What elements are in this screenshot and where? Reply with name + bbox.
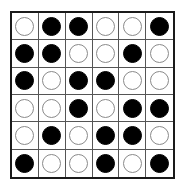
- game-board: [10, 11, 175, 179]
- white-disc-icon: [96, 17, 115, 36]
- board-cell-r6-c3[interactable]: [66, 150, 93, 177]
- black-disc-icon: [123, 44, 142, 63]
- white-disc-icon: [150, 71, 169, 90]
- white-disc-icon: [96, 44, 115, 63]
- board-cell-r6-c5[interactable]: [119, 150, 146, 177]
- black-disc-icon: [69, 71, 88, 90]
- board-cell-r3-c1[interactable]: [12, 68, 39, 95]
- white-disc-icon: [69, 126, 88, 145]
- board-cell-r4-c4[interactable]: [93, 95, 120, 122]
- black-disc-icon: [123, 99, 142, 118]
- black-disc-icon: [42, 126, 61, 145]
- board-cell-r6-c1[interactable]: [12, 150, 39, 177]
- white-disc-icon: [150, 44, 169, 63]
- board-cell-r6-c4[interactable]: [93, 150, 120, 177]
- board-cell-r2-c5[interactable]: [119, 40, 146, 67]
- black-disc-icon: [96, 154, 115, 173]
- black-disc-icon: [15, 154, 34, 173]
- board-cell-r5-c5[interactable]: [119, 122, 146, 149]
- board-cell-r6-c2[interactable]: [39, 150, 66, 177]
- black-disc-icon: [150, 99, 169, 118]
- board-cell-r4-c2[interactable]: [39, 95, 66, 122]
- board-cell-r5-c2[interactable]: [39, 122, 66, 149]
- board-cell-r3-c5[interactable]: [119, 68, 146, 95]
- white-disc-icon: [15, 99, 34, 118]
- black-disc-icon: [42, 44, 61, 63]
- board-cell-r2-c6[interactable]: [146, 40, 173, 67]
- board-cell-r5-c1[interactable]: [12, 122, 39, 149]
- white-disc-icon: [123, 17, 142, 36]
- white-disc-icon: [15, 126, 34, 145]
- black-disc-icon: [150, 154, 169, 173]
- black-disc-icon: [15, 44, 34, 63]
- board-cell-r5-c4[interactable]: [93, 122, 120, 149]
- board-cell-r4-c1[interactable]: [12, 95, 39, 122]
- board-cell-r5-c6[interactable]: [146, 122, 173, 149]
- black-disc-icon: [42, 17, 61, 36]
- board-cell-r4-c5[interactable]: [119, 95, 146, 122]
- black-disc-icon: [69, 99, 88, 118]
- white-disc-icon: [42, 99, 61, 118]
- board-cell-r1-c1[interactable]: [12, 13, 39, 40]
- board-cell-r2-c1[interactable]: [12, 40, 39, 67]
- board-cell-r1-c6[interactable]: [146, 13, 173, 40]
- black-disc-icon: [96, 126, 115, 145]
- white-disc-icon: [123, 154, 142, 173]
- board-cell-r2-c2[interactable]: [39, 40, 66, 67]
- board-cell-r3-c2[interactable]: [39, 68, 66, 95]
- black-disc-icon: [150, 17, 169, 36]
- white-disc-icon: [123, 71, 142, 90]
- board-cell-r1-c5[interactable]: [119, 13, 146, 40]
- board-cell-r6-c6[interactable]: [146, 150, 173, 177]
- black-disc-icon: [15, 71, 34, 90]
- white-disc-icon: [150, 126, 169, 145]
- white-disc-icon: [42, 71, 61, 90]
- black-disc-icon: [69, 17, 88, 36]
- board-cell-r1-c2[interactable]: [39, 13, 66, 40]
- white-disc-icon: [42, 154, 61, 173]
- white-disc-icon: [15, 17, 34, 36]
- board-cell-r4-c6[interactable]: [146, 95, 173, 122]
- board-cell-r1-c3[interactable]: [66, 13, 93, 40]
- black-disc-icon: [96, 71, 115, 90]
- board-cell-r2-c4[interactable]: [93, 40, 120, 67]
- black-disc-icon: [123, 126, 142, 145]
- board-cell-r3-c4[interactable]: [93, 68, 120, 95]
- board-cell-r1-c4[interactable]: [93, 13, 120, 40]
- board-cell-r3-c3[interactable]: [66, 68, 93, 95]
- white-disc-icon: [69, 44, 88, 63]
- board-cell-r2-c3[interactable]: [66, 40, 93, 67]
- board-cell-r3-c6[interactable]: [146, 68, 173, 95]
- white-disc-icon: [96, 99, 115, 118]
- board-cell-r5-c3[interactable]: [66, 122, 93, 149]
- board-cell-r4-c3[interactable]: [66, 95, 93, 122]
- white-disc-icon: [69, 154, 88, 173]
